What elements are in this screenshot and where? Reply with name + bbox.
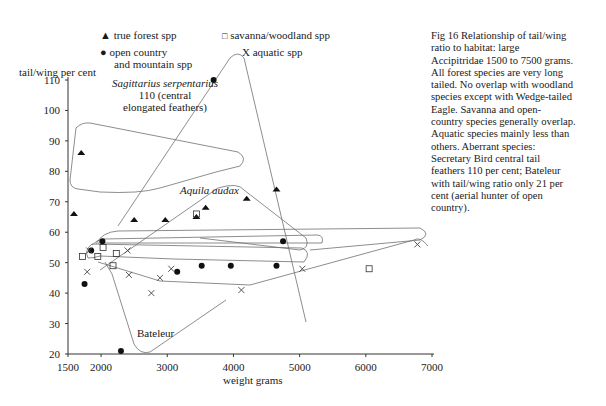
aquatic-point	[157, 275, 163, 281]
x-axis-label: weight grams	[223, 374, 283, 386]
open-country-point	[174, 269, 180, 275]
aquatic-point	[148, 290, 154, 296]
forest-point	[70, 211, 78, 216]
y-tick-label: 40	[49, 287, 61, 299]
caption-line: tailed. No overlap with woodland	[431, 79, 606, 91]
caption-line: others. Aberrant species:	[431, 141, 606, 153]
open-country-point	[99, 238, 105, 244]
filled-triangle-icon: ▲	[100, 29, 111, 41]
forest-point	[130, 217, 138, 222]
y-axis-label: tail/wing per cent	[19, 66, 96, 78]
x-tick-label: 3000	[156, 361, 179, 373]
caption-line: feathers 110 per cent; Bateleur	[431, 165, 606, 177]
open-country-point	[280, 238, 286, 244]
filled-circle-icon: ●	[100, 46, 107, 58]
y-tick-label: 50	[49, 257, 61, 269]
caption-line: country).	[431, 202, 606, 214]
savanna-point	[366, 266, 372, 272]
group-outline	[105, 262, 226, 353]
x-tick-label: 5000	[289, 361, 312, 373]
caption-line: Accipitridae 1500 to 7500 grams.	[431, 55, 606, 67]
x-tick-label: 2000	[90, 361, 113, 373]
caption-line: Eagle. Savanna and open-	[431, 104, 606, 116]
annotation-aquila-audax: Aquila audax	[180, 184, 239, 196]
data-points	[70, 77, 420, 354]
aquatic-point	[238, 287, 244, 293]
legend-open-country: ● open country and mountain spp	[100, 46, 192, 70]
legend-forest: ▲ true forest spp	[100, 29, 177, 41]
group-outline	[96, 228, 426, 250]
caption-line: cent (aerial hunter of open	[431, 190, 606, 202]
forest-point	[77, 150, 85, 155]
caption-line: country species generally overlap.	[431, 116, 606, 128]
caption-line: Secretary Bird central tail	[431, 153, 606, 165]
annotation-sagittarius: Sagittarius serpentarius 110 (central el…	[112, 77, 218, 113]
aquatic-point	[125, 247, 131, 253]
forest-point	[272, 187, 280, 192]
y-tick-label: 80	[49, 165, 61, 177]
annotation-bateleur: Bateleur	[137, 327, 174, 339]
y-tick-label: 70	[49, 196, 61, 208]
open-country-point	[228, 263, 234, 269]
forest-point	[161, 217, 169, 222]
x-tick-label: 1500	[57, 361, 80, 373]
figure-caption: Fig 16 Relationship of tail/wingratio to…	[431, 30, 606, 214]
caption-line: species except with Wedge-tailed	[431, 91, 606, 103]
open-country-point	[199, 263, 205, 269]
legend-aquatic: X aquatic spp	[242, 46, 303, 58]
savanna-point	[113, 251, 119, 257]
x-tick-label: 6000	[355, 361, 378, 373]
open-square-icon: □	[222, 31, 227, 41]
x-tick-label: 7000	[421, 361, 444, 373]
group-outline	[70, 123, 244, 193]
x-mark-icon: X	[242, 46, 250, 58]
caption-line: ratio to habitat: large	[431, 42, 606, 54]
aquatic-point	[84, 269, 90, 275]
y-tick-label: 90	[49, 135, 61, 147]
x-tick-label: 4000	[222, 361, 245, 373]
y-tick-label: 20	[49, 348, 61, 360]
aquatic-point	[414, 241, 420, 247]
open-country-point	[273, 263, 279, 269]
axes	[65, 77, 434, 357]
savanna-point	[100, 244, 106, 250]
y-tick-label: 30	[49, 318, 61, 330]
open-country-point	[118, 348, 124, 354]
forest-point	[202, 205, 210, 210]
y-tick-label: 60	[49, 226, 61, 238]
aquatic-point	[168, 266, 174, 272]
open-country-point	[82, 281, 88, 287]
y-tick-label: 100	[44, 104, 61, 116]
forest-point	[243, 196, 251, 201]
savanna-point	[80, 254, 86, 260]
legend-savanna: □ savanna/woodland spp	[222, 29, 330, 42]
tick-labels: 2030405060708090100110150020003000400050…	[44, 74, 444, 373]
caption-line: All forest species are very long	[431, 67, 606, 79]
caption-line: with tail/wing ratio only 21 per	[431, 178, 606, 190]
caption-line: Aquatic species mainly less than	[431, 128, 606, 140]
caption-line: Fig 16 Relationship of tail/wing	[431, 30, 606, 42]
aquatic-point	[126, 272, 132, 278]
